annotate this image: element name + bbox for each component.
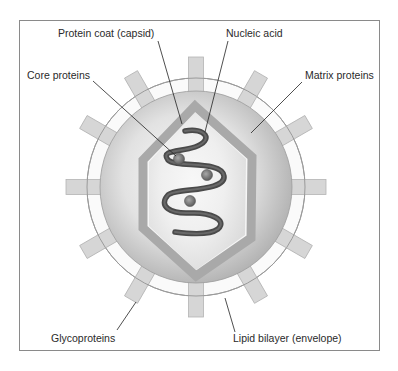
label-core-proteins: Core proteins <box>27 69 90 81</box>
label-nucleic-acid: Nucleic acid <box>226 27 283 39</box>
label-matrix-proteins: Matrix proteins <box>305 69 374 81</box>
label-glycoproteins: Glycoproteins <box>51 332 115 344</box>
label-capsid: Protein coat (capsid) <box>58 27 154 39</box>
label-lipid-bilayer: Lipid bilayer (envelope) <box>233 332 342 344</box>
virus-diagram <box>0 0 398 371</box>
